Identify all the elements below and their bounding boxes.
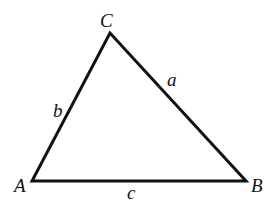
vertex-label-c: C <box>100 10 113 31</box>
triangle-svg: C A B a b c <box>0 0 273 207</box>
vertex-label-b: B <box>251 175 263 196</box>
side-label-a: a <box>167 69 177 90</box>
side-label-c: c <box>127 182 136 203</box>
side-label-b: b <box>53 100 63 121</box>
vertex-label-a: A <box>12 175 26 196</box>
triangle-diagram: C A B a b c <box>0 0 273 207</box>
triangle-abc <box>32 33 246 181</box>
